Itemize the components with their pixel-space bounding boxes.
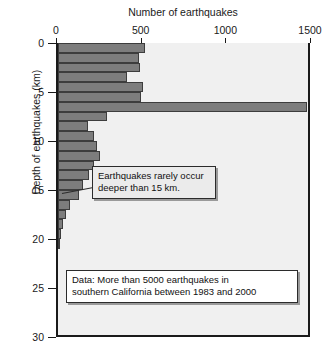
y-tick-mark <box>48 288 56 289</box>
bar <box>58 53 139 63</box>
x-tick-mark <box>310 38 311 43</box>
y-tick-label: 10 <box>22 135 44 147</box>
bar <box>58 170 89 180</box>
y-tick-label: 25 <box>22 282 44 294</box>
y-tick-label: 5 <box>22 86 44 98</box>
y-tick-label: 30 <box>22 331 44 343</box>
x-axis-title: Number of earthquakes <box>56 6 310 18</box>
annotation-shallow-line-2: deeper than 15 km. <box>98 182 210 194</box>
annotation-data-source: Data: More than 5000 earthquakes in sout… <box>66 270 298 303</box>
bar <box>58 151 100 161</box>
bar <box>58 63 140 73</box>
x-tick-label: 1000 <box>214 24 237 36</box>
y-tick-mark <box>48 43 56 44</box>
bar <box>58 102 307 112</box>
y-tick-label: 20 <box>22 233 44 245</box>
bar <box>58 92 141 102</box>
annotation-data-line-1: Data: More than 5000 earthquakes in <box>72 274 292 286</box>
bar <box>58 43 145 53</box>
y-tick-mark <box>48 239 56 240</box>
y-tick-label: 0 <box>22 37 44 49</box>
y-tick-mark <box>48 190 56 191</box>
x-tick-label: 500 <box>132 24 150 36</box>
bar <box>58 210 66 220</box>
bar <box>58 161 94 171</box>
bar <box>58 82 143 92</box>
x-tick-label: 0 <box>53 24 59 36</box>
bar <box>58 131 94 141</box>
y-tick-label: 15 <box>22 184 44 196</box>
earthquake-depth-histogram: Number of earthquakes 050010001500 Depth… <box>0 0 325 358</box>
annotation-shallow-line-1: Earthquakes rarely occur <box>98 170 210 182</box>
bar <box>58 219 63 229</box>
annotation-shallow-note: Earthquakes rarely occur deeper than 15 … <box>92 166 216 199</box>
y-tick-mark <box>48 92 56 93</box>
bar <box>58 121 88 131</box>
bar <box>58 239 60 249</box>
bar <box>58 72 127 82</box>
bar <box>58 141 97 151</box>
bar <box>58 229 61 239</box>
y-tick-mark <box>48 141 56 142</box>
annotation-data-line-2: southern California between 1983 and 200… <box>72 286 292 298</box>
y-tick-mark <box>48 337 56 338</box>
x-tick-label: 1500 <box>298 24 321 36</box>
bar <box>58 200 70 210</box>
bar <box>58 112 107 122</box>
